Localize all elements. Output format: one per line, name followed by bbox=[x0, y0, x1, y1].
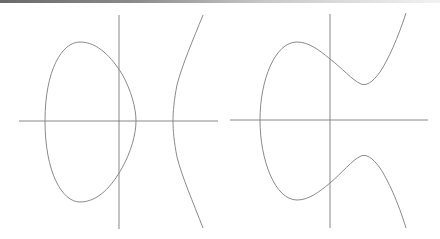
right-connected-curve bbox=[260, 13, 406, 228]
left-oval-component bbox=[45, 42, 136, 202]
left-panel bbox=[19, 15, 218, 229]
right-panel bbox=[230, 13, 428, 228]
left-unbounded-branch bbox=[173, 15, 203, 228]
elliptic-curves-figure bbox=[0, 0, 440, 239]
